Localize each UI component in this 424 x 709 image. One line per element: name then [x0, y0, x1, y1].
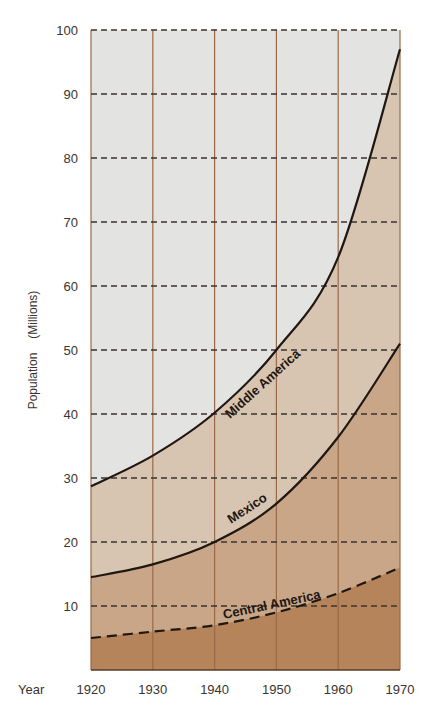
- x-tick-1920: 1920: [77, 682, 106, 697]
- y-tick-20: 20: [64, 535, 78, 550]
- y-tick-30: 30: [64, 471, 78, 486]
- y-tick-50: 50: [64, 343, 78, 358]
- population-chart: 102030405060708090100 192019301940195019…: [0, 0, 424, 709]
- y-tick-70: 70: [64, 215, 78, 230]
- y-axis-title-population: Population: [26, 353, 40, 410]
- y-tick-100: 100: [56, 23, 78, 38]
- y-tick-60: 60: [64, 279, 78, 294]
- y-axis-title-unit: (Millions): [26, 291, 40, 339]
- y-tick-80: 80: [64, 151, 78, 166]
- y-tick-10: 10: [64, 599, 78, 614]
- y-axis-title: Population(Millions): [26, 291, 40, 410]
- y-axis-ticks: 102030405060708090100: [56, 23, 78, 614]
- x-tick-1960: 1960: [324, 682, 353, 697]
- x-axis-ticks: 192019301940195019601970: [77, 682, 415, 697]
- x-tick-1970: 1970: [386, 682, 415, 697]
- x-tick-1950: 1950: [262, 682, 291, 697]
- y-tick-40: 40: [64, 407, 78, 422]
- x-tick-1940: 1940: [200, 682, 229, 697]
- x-axis-title: Year: [18, 682, 45, 697]
- x-tick-1930: 1930: [138, 682, 167, 697]
- y-tick-90: 90: [64, 87, 78, 102]
